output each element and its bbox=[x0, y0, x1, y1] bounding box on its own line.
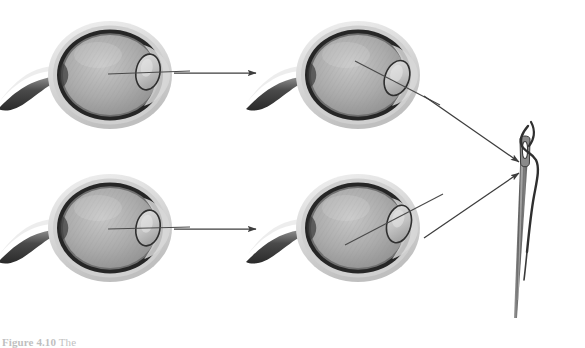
figure-caption: Figure 4.10 The bbox=[2, 336, 76, 348]
figure-caption-text: The bbox=[56, 336, 76, 348]
figure-caption-label: Figure 4.10 bbox=[2, 336, 56, 348]
